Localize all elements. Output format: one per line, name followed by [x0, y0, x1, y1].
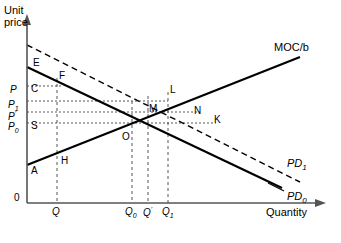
point-label-E: E: [33, 57, 40, 68]
point-label-H: H: [61, 155, 68, 166]
y-axis-title: Unit price: [4, 4, 28, 28]
x-tick-Qprime: Q': [143, 206, 152, 218]
point-label-M: M: [149, 103, 157, 114]
y-tick-P0: P0: [8, 121, 19, 134]
horizontal-guide-lines: [27, 86, 216, 123]
economics-supply-demand-figure: Unit price Quantity 0 P P1 P' P0 Q Q0 Q'…: [0, 0, 341, 243]
pd0-curve: [27, 67, 282, 188]
moc-curve-label: MOC/b: [274, 41, 309, 53]
y-axis: [23, 14, 31, 203]
x-tick-Q: Q: [52, 206, 60, 217]
x-axis-title: Quantity: [266, 206, 307, 218]
point-label-A: A: [31, 165, 38, 176]
point-label-F: F: [59, 70, 65, 81]
point-label-N: N: [194, 105, 201, 116]
vertical-guide-lines: [57, 78, 168, 203]
pd0-curve-label: PD0: [287, 190, 307, 205]
point-label-L: L: [170, 84, 176, 95]
y-tick-P: P: [10, 84, 17, 95]
x-tick-Q1: Q1: [162, 206, 174, 219]
origin-label: 0: [14, 192, 20, 203]
x-tick-Q0: Q0: [125, 206, 137, 219]
point-label-K: K: [214, 114, 221, 125]
point-label-O: O: [122, 131, 130, 142]
point-label-C: C: [31, 83, 38, 94]
point-label-S: S: [31, 120, 38, 131]
pd1-curve-label: PD1: [287, 157, 307, 172]
moc-curve: [27, 57, 300, 165]
